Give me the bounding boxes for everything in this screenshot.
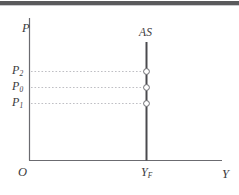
as-curve-label: AS — [139, 27, 152, 39]
aggregate-supply-figure: P Y O AS YF P2 P0 P1 — [0, 0, 239, 195]
marker-point-p0[interactable] — [144, 85, 150, 91]
x-tick-label-yf-base: Y — [141, 165, 148, 179]
origin-label: O — [18, 166, 27, 179]
x-tick-label-yf: YF — [141, 166, 152, 178]
plot-canvas — [0, 0, 239, 195]
price-label-p0-sub: 0 — [19, 85, 23, 94]
price-label-p1-sub: 1 — [19, 101, 23, 110]
y-axis-label: P — [22, 22, 30, 35]
price-label-p2: P2 — [12, 64, 23, 76]
x-axis-label: Y — [222, 168, 229, 181]
price-label-p2-sub: 2 — [19, 69, 23, 78]
price-label-p0: P0 — [12, 80, 23, 92]
x-tick-label-yf-sub: F — [148, 171, 153, 180]
marker-point-p2[interactable] — [144, 69, 150, 75]
price-label-p1: P1 — [12, 96, 23, 108]
marker-point-p1[interactable] — [144, 101, 150, 107]
